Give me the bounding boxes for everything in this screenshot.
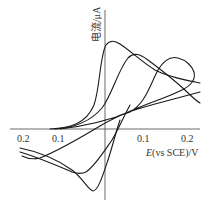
x-tick-label: 0.2 <box>181 133 194 144</box>
x-axis-title: E(vs SCE)/V <box>145 147 199 159</box>
cyclic-voltammetry-chart: 0.2 0.1 0.1 0.2 E(vs SCE)/V 电流/μA <box>0 0 207 205</box>
x-tick-label: 0.1 <box>52 133 65 144</box>
x-axis-title-unit: (vs SCE)/V <box>152 147 199 159</box>
x-axis-title-symbol: E <box>145 147 152 158</box>
x-tick-label: 0.1 <box>137 133 150 144</box>
y-axis-title: 电流/μA <box>90 6 102 42</box>
curve-3 <box>22 58 200 159</box>
curve-1 <box>20 41 200 191</box>
x-tick-label: 0.2 <box>17 133 30 144</box>
